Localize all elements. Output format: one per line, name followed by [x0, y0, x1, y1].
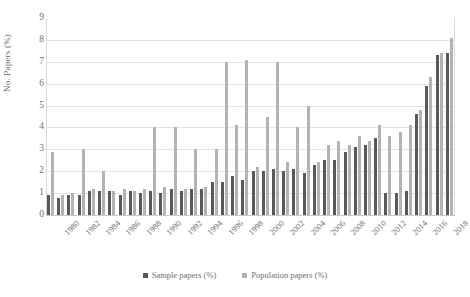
bar-group	[291, 18, 301, 215]
legend-label: Population papers (%)	[251, 270, 327, 280]
bar-population	[419, 110, 422, 215]
bar-group	[373, 18, 383, 215]
bar-group	[302, 18, 312, 215]
bar-sample	[139, 193, 142, 215]
bar-population	[61, 195, 64, 215]
x-axis: 1980198219841986198819901992199419961998…	[0, 215, 470, 270]
x-axis-tick-label: 1982	[83, 218, 102, 237]
bar-sample	[364, 145, 367, 215]
bar-group	[179, 18, 189, 215]
x-axis-tick-label: 2002	[287, 218, 306, 237]
y-axis-tick-label: 2	[6, 166, 44, 176]
bar-sample	[221, 182, 224, 215]
x-axis-tick-label: 2008	[348, 218, 367, 237]
bar-sample	[129, 191, 132, 215]
bar-group	[445, 18, 455, 215]
bar-population	[378, 125, 381, 215]
bar-sample	[272, 169, 275, 215]
bar-group	[312, 18, 322, 215]
bar-sample	[282, 171, 285, 215]
y-axis-tick-label: 6	[6, 79, 44, 89]
bar-group	[148, 18, 158, 215]
bar-group	[189, 18, 199, 215]
bar-group	[435, 18, 445, 215]
bar-group	[414, 18, 424, 215]
bar-population	[204, 187, 207, 215]
bar-population	[225, 62, 228, 215]
bar-population	[358, 136, 361, 215]
bar-sample	[108, 191, 111, 215]
bar-sample	[313, 165, 316, 215]
bar-population	[235, 125, 238, 215]
y-axis-tick-label: 8	[6, 35, 44, 45]
bar-group	[77, 18, 87, 215]
bar-group	[322, 18, 332, 215]
bar-group	[383, 18, 393, 215]
bar-population	[450, 38, 453, 215]
bar-sample	[159, 193, 162, 215]
bar-population	[174, 127, 177, 215]
bar-group	[66, 18, 76, 215]
bar-sample	[200, 189, 203, 215]
x-axis-tick-label: 1998	[246, 218, 265, 237]
legend: Sample papers (%)Population papers (%)	[0, 270, 470, 280]
bar-population	[256, 167, 259, 215]
bar-population	[368, 141, 371, 215]
bar-sample	[323, 160, 326, 215]
bar-population	[153, 127, 156, 215]
bar-sample	[384, 193, 387, 215]
y-axis-tick-label: 3	[6, 145, 44, 155]
bar-sample	[98, 191, 101, 215]
bar-group	[97, 18, 107, 215]
bar-sample	[333, 160, 336, 215]
bar-group	[240, 18, 250, 215]
bar-population	[123, 189, 126, 215]
bar-population	[143, 189, 146, 215]
plot-area	[46, 18, 455, 215]
legend-label: Sample papers (%)	[152, 270, 217, 280]
bar-population	[440, 53, 443, 215]
bar-population	[337, 141, 340, 215]
bar-population	[327, 145, 330, 215]
bar-population	[194, 149, 197, 215]
x-axis-tick-label: 2012	[389, 218, 408, 237]
bar-population	[133, 191, 136, 215]
bar-population	[388, 136, 391, 215]
bar-sample	[405, 191, 408, 215]
x-axis-tick-label: 2016	[430, 218, 449, 237]
x-axis-tick-label: 2010	[369, 218, 388, 237]
bar-group	[169, 18, 179, 215]
legend-item: Sample papers (%)	[143, 270, 217, 280]
bar-sample	[252, 171, 255, 215]
bar-group	[87, 18, 97, 215]
bar-sample	[119, 195, 122, 215]
x-axis-tick-label: 1980	[62, 218, 81, 237]
bar-group	[107, 18, 117, 215]
bar-population	[82, 149, 85, 215]
bar-group	[199, 18, 209, 215]
bar-group	[56, 18, 66, 215]
x-axis-tick-label: 2000	[267, 218, 286, 237]
bar-group	[343, 18, 353, 215]
x-axis-tick-label: 2004	[307, 218, 326, 237]
bar-population	[215, 149, 218, 215]
bar-population	[399, 132, 402, 215]
bar-sample	[190, 189, 193, 215]
bar-group	[394, 18, 404, 215]
bar-group	[210, 18, 220, 215]
x-axis-tick-label: 1988	[144, 218, 163, 237]
bar-group	[128, 18, 138, 215]
bar-population	[163, 187, 166, 215]
bar-sample	[67, 195, 70, 215]
bar-population	[317, 162, 320, 215]
bar-chart: No. Papers (%) 0123456789 19801982198419…	[0, 0, 470, 297]
x-axis-tick-label: 2014	[410, 218, 429, 237]
x-axis-tick-label: 2006	[328, 218, 347, 237]
bar-population	[102, 171, 105, 215]
bar-sample	[436, 55, 439, 215]
bar-group	[363, 18, 373, 215]
bar-group	[158, 18, 168, 215]
x-axis-tick-label: 1986	[123, 218, 142, 237]
x-axis-tick-label: 1996	[226, 218, 245, 237]
bar-sample	[170, 189, 173, 215]
